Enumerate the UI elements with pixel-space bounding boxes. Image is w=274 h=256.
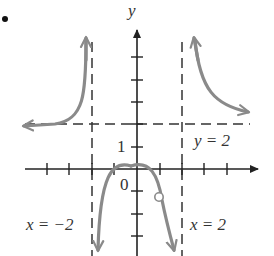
right-branch-curve-up	[194, 38, 198, 60]
left-asymptote-label: x = −2	[25, 215, 74, 234]
left-branch-curve	[24, 40, 86, 126]
horizontal-asymptote-label: y = 2	[192, 131, 231, 150]
right-branch-curve	[195, 40, 248, 112]
hole-marker	[155, 193, 163, 201]
right-asymptote-label: x = 2	[189, 215, 227, 234]
y-tick-1-label: 1	[117, 137, 126, 156]
origin-label: 0	[120, 175, 129, 194]
rational-function-graph: y 0 1 y = 2 x = −2 x = 2	[0, 0, 274, 256]
y-axis-label: y	[126, 1, 136, 20]
